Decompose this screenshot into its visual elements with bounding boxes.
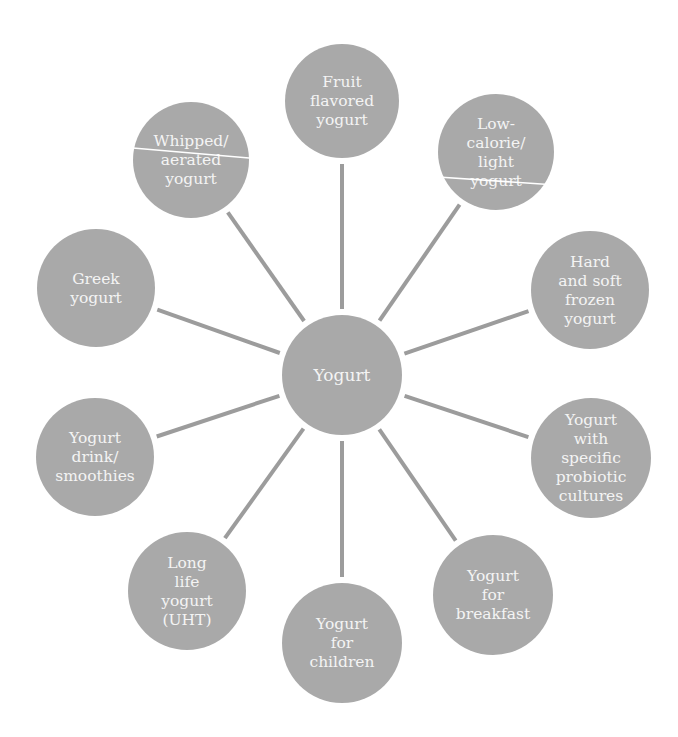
center-node: Yogurt (282, 315, 402, 435)
node-label-line: for (331, 634, 354, 652)
node-label-line: flavored (310, 92, 374, 110)
node-label-line: Whipped/ (153, 132, 229, 150)
node-label-line: Yogurt (315, 615, 369, 633)
yogurt-types-diagram: FruitflavoredyogurtLow-calorie/lightyogu… (0, 0, 678, 737)
node-breakfast: Yogurtforbreakfast (433, 535, 553, 655)
node-label-line: Yogurt (466, 567, 520, 585)
node-label-line: calorie/ (467, 134, 527, 152)
node-label-line: light (478, 153, 515, 171)
node-label-line: Yogurt (68, 429, 122, 447)
node-label-line: breakfast (456, 605, 531, 623)
node-label-line: probiotic (556, 468, 627, 486)
node-low-calorie: Low-calorie/lightyogurt (438, 94, 556, 210)
node-whipped: Whipped/aeratedyogurt (133, 102, 249, 218)
spoke-long-life (225, 429, 304, 539)
node-label-line: Long (167, 554, 207, 572)
node-fruit-flavored: Fruitflavoredyogurt (285, 44, 399, 158)
node-label-line: frozen (565, 291, 615, 309)
node-label-line: for (482, 586, 505, 604)
node-frozen: Hardand softfrozenyogurt (531, 231, 649, 349)
node-label-line: (UHT) (162, 611, 211, 629)
spoke-probiotic (405, 396, 529, 437)
spoke-breakfast (379, 429, 455, 540)
node-greek: Greekyogurt (37, 229, 155, 347)
spoke-whipped (228, 212, 304, 321)
spoke-smoothies (157, 396, 280, 437)
node-smoothies: Yogurtdrink/smoothies (36, 398, 154, 516)
node-label-line: Hard (570, 253, 610, 271)
node-label-line: specific (561, 449, 621, 467)
node-label-line: yogurt (315, 111, 368, 129)
node-long-life: Longlifeyogurt(UHT) (128, 532, 246, 650)
node-label-line: smoothies (55, 467, 135, 485)
node-label-line: cultures (559, 487, 623, 505)
center-label: Yogurt (313, 365, 371, 385)
node-label-line: Yogurt (564, 411, 618, 429)
node-label-line: with (574, 430, 608, 448)
node-label-line: Fruit (322, 73, 362, 91)
node-label-line: yogurt (160, 592, 213, 610)
node-label-line: life (175, 573, 200, 591)
node-label-line: and soft (558, 272, 622, 290)
node-label-line: Greek (72, 270, 120, 288)
node-label-line: yogurt (69, 289, 122, 307)
node-label-line: Low- (477, 115, 515, 133)
node-label-line: yogurt (164, 170, 217, 188)
node-label-line: children (309, 653, 374, 671)
spoke-frozen (404, 311, 528, 354)
node-probiotic: Yogurtwithspecificprobioticcultures (531, 398, 651, 518)
node-label-line: yogurt (563, 310, 616, 328)
node-children: Yogurtforchildren (282, 583, 402, 703)
node-label-line: drink/ (72, 448, 120, 466)
spoke-greek (157, 310, 279, 353)
spoke-low-calorie (380, 205, 460, 321)
